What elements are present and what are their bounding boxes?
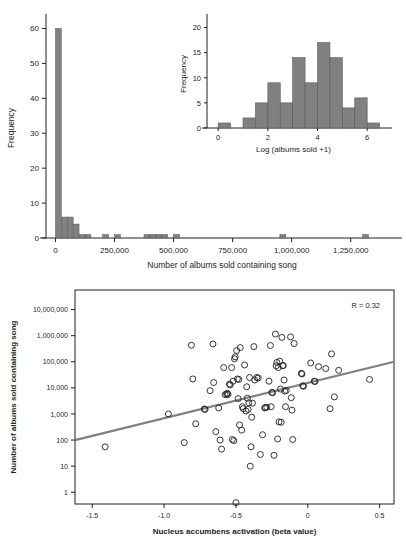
scatter-point [279, 334, 285, 340]
inset-bar [318, 43, 330, 128]
hist-bar [162, 235, 168, 238]
scatter-point [239, 427, 245, 433]
scatter-plot-chart: 1101001,00010,000100,0001,000,00010,000,… [0, 278, 406, 553]
histogram-panel: 0102030405060Frequency0250,000500,000750… [0, 0, 406, 278]
main-histogram-chart: 0102030405060Frequency0250,000500,000750… [0, 0, 406, 278]
scatter-point [308, 360, 314, 366]
scatter-point [211, 380, 217, 386]
inset-x-tick-label: 4 [315, 133, 319, 142]
hist-y-tick-label: 40 [30, 94, 39, 103]
scatter-point [289, 407, 295, 413]
scatter-point [221, 365, 227, 371]
inset-x-axis-title: Log (albums sold +1) [256, 145, 331, 154]
hist-x-tick-label: 1,000,000 [274, 246, 310, 255]
scatter-y-tick-label: 100,000 [43, 358, 68, 365]
hist-bar [174, 235, 180, 238]
inset-bar [355, 98, 367, 128]
scatter-point [331, 394, 337, 400]
hist-x-tick-label: 0 [53, 246, 58, 255]
scatter-y-tick-label: 10,000 [47, 384, 69, 391]
hist-bar [61, 217, 67, 238]
scatter-y-axis-title: Number of albums sold containing song [9, 320, 18, 473]
scatter-y-tick-label: 1,000,000 [37, 332, 68, 339]
scatter-x-tick-label: 0 [306, 512, 310, 519]
scatter-point [193, 421, 199, 427]
hist-bar [79, 235, 85, 238]
scatter-point [251, 344, 257, 350]
inset-y-tick-label: 10 [193, 74, 201, 83]
scatter-point [367, 376, 373, 382]
scatter-point [288, 395, 294, 401]
scatter-point [290, 437, 296, 443]
hist-bar [280, 235, 286, 238]
scatter-x-tick-label: -0.5 [230, 512, 242, 519]
scatter-point [247, 463, 253, 469]
hist-y-tick-label: 30 [30, 129, 39, 138]
scatter-point [271, 452, 277, 458]
scatter-point [232, 354, 238, 360]
scatter-point [219, 446, 225, 452]
inset-x-tick-label: 2 [266, 133, 270, 142]
scatter-point [257, 451, 263, 457]
hist-bar [55, 28, 61, 238]
hist-bar [67, 217, 73, 238]
inset-bar [367, 123, 379, 128]
scatter-correlation-annotation: R = 0.32 [351, 301, 380, 310]
hist-y-axis-title: Frequency [6, 107, 16, 148]
hist-bar [363, 235, 369, 238]
hist-x-tick-label: 500,000 [159, 246, 188, 255]
inset-bar [268, 83, 280, 128]
hist-bar [103, 235, 109, 238]
hist-y-tick-label: 10 [30, 199, 39, 208]
scatter-y-tick-label: 1,000 [50, 411, 68, 418]
hist-bar [156, 235, 162, 238]
inset-bar [255, 103, 267, 128]
inset-bar [243, 118, 255, 128]
scatter-point [242, 362, 248, 368]
inset-y-tick-label: 5 [197, 99, 201, 108]
scatter-point [102, 444, 108, 450]
hist-x-tick-label: 1,250,000 [333, 246, 369, 255]
inset-bar [330, 58, 342, 128]
scatter-point [316, 364, 322, 370]
scatter-point [244, 384, 250, 390]
scatter-point [249, 400, 255, 406]
scatter-x-tick-label: -1.0 [158, 512, 170, 519]
scatter-point [229, 365, 235, 371]
scatter-point [288, 334, 294, 340]
scatter-point [266, 378, 272, 384]
inset-bar [293, 58, 305, 128]
hist-bar [144, 235, 150, 238]
scatter-point [260, 432, 266, 438]
scatter-point [336, 367, 342, 373]
scatter-point [323, 366, 329, 372]
scatter-x-axis-title: Nucleus accumbens activation (beta value… [153, 527, 317, 536]
scatter-body: 1101001,00010,000100,0001,000,00010,000,… [9, 290, 394, 536]
inset-bar [280, 103, 292, 128]
inset-y-tick-label: 15 [193, 48, 201, 57]
inset-y-tick-label: 0 [197, 124, 201, 133]
hist-bar [73, 224, 79, 238]
inset-y-tick-label: 20 [193, 23, 201, 32]
hist-y-tick-label: 50 [30, 59, 39, 68]
inset-y-axis-title: Frequency [179, 55, 188, 93]
hist-y-tick-label: 20 [30, 164, 39, 173]
hist-bar [150, 235, 156, 238]
scatter-x-tick-label: 0.5 [375, 512, 385, 519]
scatter-point [231, 438, 237, 444]
scatter-x-tick-label: -1.5 [86, 512, 98, 519]
scatter-y-tick-label: 100 [56, 437, 68, 444]
scatter-point [327, 406, 333, 412]
scatter-point [217, 437, 223, 443]
inset-x-tick-label: 6 [365, 133, 369, 142]
scatter-point [275, 436, 281, 442]
hist-bar [85, 235, 91, 238]
scatter-point [207, 388, 213, 394]
inset-histogram-body: 05101520Frequency0246Log (albums sold +1… [179, 14, 392, 154]
scatter-point [190, 376, 196, 382]
scatter-point [248, 444, 254, 450]
scatter-point [283, 404, 289, 410]
inset-x-tick-label: 0 [216, 133, 220, 142]
hist-x-tick-label: 250,000 [100, 246, 129, 255]
inset-bar [218, 123, 230, 128]
